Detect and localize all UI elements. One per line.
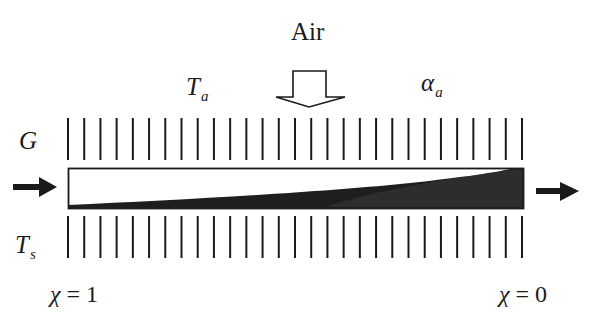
mass-flux-label: G [19,128,37,153]
fins-top [68,118,522,160]
outlet-arrow-icon [536,182,579,201]
air-temperature-label: Ta [186,74,207,99]
air-heat-coefficient-label: αa [421,70,442,95]
condenser-tube-diagram [0,0,593,316]
diagram-title: Air [291,19,324,44]
inlet-quality-label: χ = 1 [50,282,98,306]
fins-bottom [68,216,522,258]
outlet-quality-label: χ = 0 [499,282,547,306]
surface-temperature-label: Ts [15,232,35,257]
inlet-arrow-icon [13,177,57,197]
air-inflow-arrow-icon [276,71,345,107]
